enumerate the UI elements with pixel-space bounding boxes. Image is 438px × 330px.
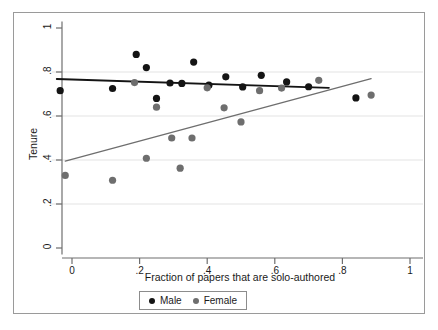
data-point-male-11 — [258, 72, 265, 79]
chart-legend: MaleFemale — [139, 291, 247, 310]
axis-ticks-group — [56, 28, 410, 264]
legend-label-male: Male — [160, 295, 182, 306]
x-axis-title: Fraction of papers that are solo-authore… — [60, 271, 420, 283]
data-point-male-1 — [109, 85, 116, 92]
data-point-male-12 — [283, 78, 290, 85]
data-point-female-7 — [188, 134, 195, 141]
data-point-female-2 — [131, 79, 138, 86]
data-point-female-13 — [315, 77, 322, 84]
data-point-male-6 — [178, 80, 185, 87]
data-point-male-7 — [190, 59, 197, 66]
data-point-female-9 — [221, 104, 228, 111]
y-tick-label-4: .8 — [42, 64, 53, 78]
data-point-female-14 — [368, 92, 375, 99]
data-point-female-10 — [237, 118, 244, 125]
chart-figure: 0.2.4.6.81 0.2.4.6.81 Tenure Fraction of… — [0, 0, 438, 330]
legend-label-female: Female — [204, 295, 237, 306]
y-tick-label-0: 0 — [42, 240, 53, 254]
data-point-female-8 — [204, 84, 211, 91]
y-tick-label-5: 1 — [42, 20, 53, 34]
data-point-female-5 — [168, 134, 175, 141]
data-point-male-4 — [153, 95, 160, 102]
legend-marker-male-icon — [149, 298, 155, 304]
data-point-male-0 — [57, 87, 64, 94]
data-point-female-1 — [109, 177, 116, 184]
data-point-female-12 — [278, 84, 285, 91]
y-tick-label-3: .6 — [42, 108, 53, 122]
y-tick-label-2: .4 — [42, 152, 53, 166]
data-point-female-0 — [62, 172, 69, 179]
legend-marker-female-icon — [193, 298, 199, 304]
legend-entry-female: Female — [193, 295, 237, 306]
data-point-male-2 — [133, 51, 140, 58]
data-point-male-3 — [143, 64, 150, 71]
fit-lines-group — [57, 79, 371, 162]
data-point-male-13 — [305, 83, 312, 90]
legend-entry-male: Male — [149, 295, 182, 306]
data-point-male-14 — [352, 94, 359, 101]
gridlines-group — [52, 72, 423, 204]
data-point-female-3 — [143, 155, 150, 162]
axis-lines-group — [62, 21, 423, 258]
y-tick-label-1: .2 — [42, 196, 53, 210]
data-points-group — [57, 51, 375, 184]
data-point-female-4 — [153, 104, 160, 111]
data-point-female-11 — [256, 87, 263, 94]
data-point-male-9 — [222, 73, 229, 80]
y-axis-title: Tenure — [27, 128, 39, 160]
data-point-female-6 — [177, 165, 184, 172]
data-point-male-5 — [166, 79, 173, 86]
data-point-male-10 — [239, 83, 246, 90]
